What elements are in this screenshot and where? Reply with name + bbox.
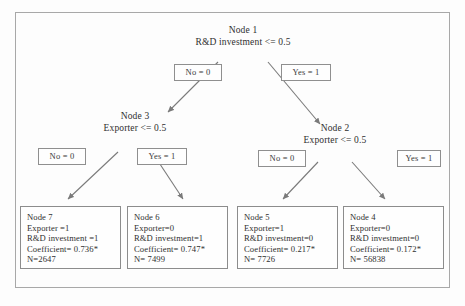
root-node-condition: R&D investment <= 0.5 [168, 36, 318, 48]
leaf-node-6: Node 6 Exporter=0 R&D investment=1 Coeff… [127, 206, 228, 269]
internal-node-2-label: Node 2 Exporter <= 0.5 [270, 122, 400, 146]
leaf-node-4-rd: R&D investment=0 [350, 233, 443, 244]
leaf-node-7-id: Node 7 [27, 212, 120, 223]
edge-label-node2-no: No = 0 [258, 150, 306, 167]
edge-label-root-no: No = 0 [174, 64, 222, 81]
edge-label-root-yes: Yes = 1 [281, 64, 331, 81]
edge-label-node2-yes: Yes = 1 [397, 150, 441, 167]
leaf-node-4-id: Node 4 [350, 212, 443, 223]
leaf-node-4-coefficient: Coefficient= 0.172* [350, 244, 443, 255]
leaf-node-5: Node 5 Exporter=1 R&D investment=0 Coeff… [237, 206, 338, 269]
leaf-node-4: Node 4 Exporter=0 R&D investment=0 Coeff… [343, 206, 444, 269]
leaf-node-6-n: N= 7499 [134, 254, 227, 265]
internal-node-3-id: Node 3 [70, 110, 200, 122]
leaf-node-6-coefficient: Coefficient= 0.747* [134, 244, 227, 255]
leaf-node-7-n: N=2647 [27, 254, 120, 265]
leaf-node-6-rd: R&D investment=1 [134, 233, 227, 244]
leaf-node-5-rd: R&D investment=0 [244, 233, 337, 244]
edge-label-node3-yes: Yes = 1 [137, 148, 187, 165]
leaf-node-6-exporter: Exporter=0 [134, 223, 227, 234]
internal-node-2-condition: Exporter <= 0.5 [270, 134, 400, 146]
leaf-node-4-n: N= 56838 [350, 254, 443, 265]
root-node-id: Node 1 [168, 24, 318, 36]
leaf-node-7-rd: R&D investment =1 [27, 233, 120, 244]
leaf-node-7: Node 7 Exporter =1 R&D investment =1 Coe… [20, 206, 121, 269]
edge-label-node3-no: No = 0 [38, 148, 86, 165]
leaf-node-6-id: Node 6 [134, 212, 227, 223]
internal-node-2-id: Node 2 [270, 122, 400, 134]
root-node-label: Node 1 R&D investment <= 0.5 [168, 24, 318, 48]
leaf-node-5-n: N= 7726 [244, 254, 337, 265]
leaf-node-7-exporter: Exporter =1 [27, 223, 120, 234]
leaf-node-4-exporter: Exporter=0 [350, 223, 443, 234]
figure-canvas: Node 1 R&D investment <= 0.5 No = 0 Yes … [0, 0, 465, 306]
leaf-node-7-coefficient: Coefficient= 0.736* [27, 244, 120, 255]
leaf-node-5-coefficient: Coefficient= 0.217* [244, 244, 337, 255]
internal-node-3-condition: Exporter <= 0.5 [70, 122, 200, 134]
leaf-node-5-id: Node 5 [244, 212, 337, 223]
internal-node-3-label: Node 3 Exporter <= 0.5 [70, 110, 200, 134]
leaf-node-5-exporter: Exporter=1 [244, 223, 337, 234]
